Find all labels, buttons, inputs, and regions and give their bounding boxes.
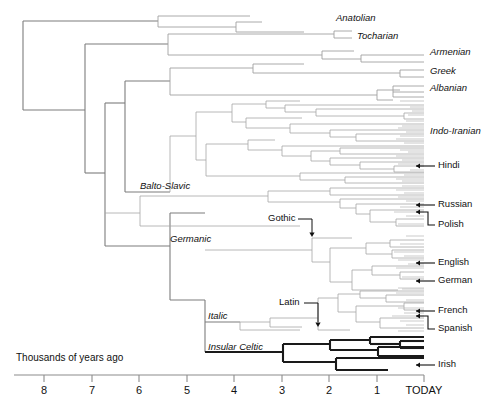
ancestor-label-gothic: Gothic [268, 213, 295, 223]
clade-label-tocharian: Tocharian [357, 31, 398, 41]
clade-label-balto-slavic: Balto-Slavic [140, 181, 190, 191]
clade-label-greek: Greek [430, 66, 456, 76]
axis-tick-1: 1 [367, 384, 387, 396]
axis-caption: Thousands of years ago [16, 352, 123, 363]
clade-label-indo-iranian: Indo-Iranian [430, 126, 481, 136]
language-label-irish: Irish [438, 359, 456, 369]
axis-tick-5: 5 [177, 384, 197, 396]
axis-tick-7: 7 [82, 384, 102, 396]
axis-tick-8: 8 [34, 384, 54, 396]
clade-label-armenian: Armenian [430, 47, 471, 57]
language-label-german: German [438, 275, 472, 285]
clade-label-insular-celtic: Insular Celtic [208, 342, 263, 352]
language-label-spanish: Spanish [438, 323, 472, 333]
ancestor-label-latin: Latin [279, 297, 300, 307]
language-label-russian: Russian [438, 199, 472, 209]
clade-label-anatolian: Anatolian [336, 13, 376, 23]
clade-label-albanian: Albanian [430, 83, 467, 93]
clade-label-germanic: Germanic [170, 234, 211, 244]
clade-label-italic: Italic [208, 311, 228, 321]
language-label-hindi: Hindi [438, 160, 460, 170]
axis-tick-today: TODAY [399, 384, 449, 396]
language-label-english: English [438, 257, 469, 267]
axis-tick-2: 2 [319, 384, 339, 396]
language-label-french: French [438, 305, 468, 315]
axis-tick-4: 4 [224, 384, 244, 396]
language-label-polish: Polish [438, 219, 464, 229]
axis-tick-3: 3 [272, 384, 292, 396]
axis-tick-6: 6 [129, 384, 149, 396]
